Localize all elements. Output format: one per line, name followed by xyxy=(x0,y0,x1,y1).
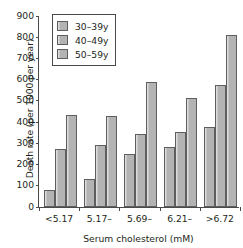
x-tick-mark xyxy=(119,207,120,211)
bar-group xyxy=(164,17,197,207)
bar xyxy=(226,35,237,207)
legend: 30–39y40–49y50–59y xyxy=(52,14,116,66)
x-tick-mark xyxy=(160,207,161,211)
legend-item: 40–49y xyxy=(57,33,108,47)
bar xyxy=(84,179,95,207)
bar xyxy=(95,145,106,207)
bar xyxy=(55,149,66,207)
bar xyxy=(106,116,117,207)
x-tick-mark xyxy=(39,207,40,211)
legend-swatch xyxy=(57,35,68,45)
y-tick-label: 400 xyxy=(16,116,34,127)
legend-label: 50–59y xyxy=(75,49,108,60)
bar xyxy=(215,85,226,207)
bar xyxy=(186,98,197,207)
x-tick-label: >6.72 xyxy=(206,213,234,224)
bar xyxy=(204,127,215,207)
x-tick-label: 5.17– xyxy=(87,213,112,224)
x-tick-label: 5.69– xyxy=(127,213,152,224)
legend-swatch xyxy=(57,49,68,59)
y-tick-label: 100 xyxy=(16,179,34,190)
y-tick-label: 300 xyxy=(16,137,34,148)
bar xyxy=(44,190,55,207)
bar-group xyxy=(204,17,237,207)
legend-item: 50–59y xyxy=(57,47,108,61)
x-tick-label: <5.17 xyxy=(45,213,73,224)
y-axis-title: Death rate (per 1000 per year) xyxy=(24,19,35,199)
y-tick-label: 200 xyxy=(16,158,34,169)
x-tick-mark xyxy=(79,207,80,211)
y-tick-label: 600 xyxy=(16,73,34,84)
legend-item: 30–39y xyxy=(57,19,108,33)
y-tick-label: 800 xyxy=(16,31,34,42)
x-tick-label: 6.21– xyxy=(167,213,192,224)
y-tick-label: 0 xyxy=(28,201,34,212)
bar xyxy=(146,82,157,207)
x-axis-title: Serum cholesterol (mM) xyxy=(38,233,239,244)
bar xyxy=(124,154,135,207)
legend-swatch xyxy=(57,21,68,31)
bar xyxy=(135,134,146,207)
bar xyxy=(164,147,175,207)
y-tick-label: 700 xyxy=(16,52,34,63)
y-tick-label: 500 xyxy=(16,94,34,105)
x-tick-mark xyxy=(240,207,241,211)
x-tick-mark xyxy=(200,207,201,211)
legend-label: 40–49y xyxy=(75,35,108,46)
bar-chart: Death rate (per 1000 per year) 010020030… xyxy=(0,0,243,248)
bar xyxy=(66,115,77,207)
legend-label: 30–39y xyxy=(75,21,108,32)
bar xyxy=(175,132,186,207)
y-tick-label: 900 xyxy=(16,10,34,21)
bar-group xyxy=(124,17,157,207)
